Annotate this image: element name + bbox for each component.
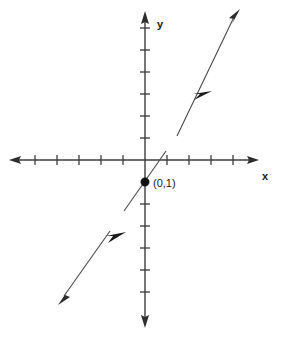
graph-canvas: y x (0,1): [0, 0, 282, 341]
x-axis-group: [9, 155, 259, 165]
direction-marker-lower-icon: [106, 232, 126, 243]
graphed-line-group: [58, 9, 240, 305]
point-coordinate-label: (0,1): [153, 177, 176, 189]
y-axis-group: [140, 11, 150, 328]
line-segment-lower: [64, 231, 110, 296]
y-axis-label: y: [157, 18, 164, 30]
coordinate-plane-figure: y x (0,1): [0, 0, 282, 341]
x-axis-label: x: [262, 170, 269, 182]
plotted-point-marker: [141, 178, 149, 186]
line-segment-upper: [177, 17, 234, 136]
arrow-up-right-icon: [229, 9, 240, 24]
arrow-down-left-icon: [58, 290, 70, 305]
